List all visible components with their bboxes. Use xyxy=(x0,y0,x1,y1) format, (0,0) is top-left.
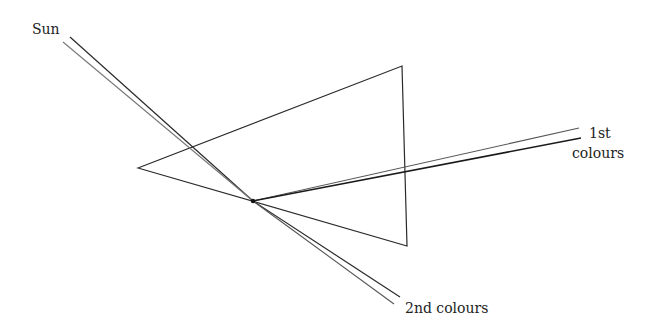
first-colours-ray-2 xyxy=(253,138,581,201)
sun-ray-1 xyxy=(70,37,253,201)
prism-diagram: Sun 1st colours 2nd colours xyxy=(0,0,667,334)
first-colours-label-line2: colours xyxy=(572,145,624,161)
second-colours-ray-1 xyxy=(253,201,400,297)
sun-label: Sun xyxy=(32,21,60,37)
first-colours-ray-1 xyxy=(253,128,579,201)
convergence-point xyxy=(251,199,255,203)
second-colours-ray-2 xyxy=(253,201,394,304)
first-colours-label-line1: 1st xyxy=(589,125,611,141)
sun-ray-2 xyxy=(63,42,253,201)
second-colours-label: 2nd colours xyxy=(405,300,488,316)
prism-triangle xyxy=(138,66,407,246)
